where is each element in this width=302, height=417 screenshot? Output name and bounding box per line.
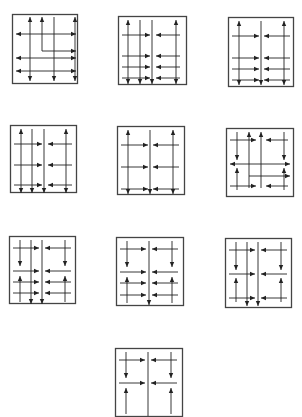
arrowhead-icon xyxy=(169,373,173,378)
arrowhead-icon xyxy=(141,247,146,251)
arrowhead-icon xyxy=(285,174,290,178)
arrowhead-icon xyxy=(259,80,263,85)
arrowhead-icon xyxy=(16,69,21,73)
arrowhead-icon xyxy=(63,261,67,266)
arrowhead-icon xyxy=(37,142,42,146)
arrowhead-icon xyxy=(143,165,148,169)
arrowhead-icon xyxy=(141,293,146,297)
arrowhead-icon xyxy=(52,76,56,81)
arrowhead-icon xyxy=(264,56,269,60)
arrowhead-icon xyxy=(152,293,157,297)
arrowhead-icon xyxy=(48,163,53,167)
arrowhead-icon xyxy=(152,270,157,274)
arrowhead-icon xyxy=(48,142,53,146)
arrowhead-icon xyxy=(235,168,239,173)
panel-frame xyxy=(11,126,77,193)
arrowhead-icon xyxy=(45,269,50,273)
panel-3 xyxy=(228,17,294,87)
arrowhead-icon xyxy=(18,261,22,266)
arrowhead-icon xyxy=(261,272,266,276)
arrowhead-icon xyxy=(282,80,286,85)
arrowhead-icon xyxy=(282,21,286,26)
arrowhead-icon xyxy=(250,296,255,300)
arrowhead-icon xyxy=(254,34,259,38)
arrowhead-icon xyxy=(34,246,39,250)
arrowhead-icon xyxy=(145,54,150,58)
arrowhead-icon xyxy=(254,67,259,71)
arrowhead-icon xyxy=(19,129,23,134)
arrowhead-icon xyxy=(147,300,151,305)
arrowhead-icon xyxy=(254,56,259,60)
arrowhead-icon xyxy=(18,276,22,281)
arrowhead-icon xyxy=(34,269,39,273)
arrowhead-icon xyxy=(34,291,39,295)
arrowhead-icon xyxy=(143,187,148,191)
arrowhead-icon xyxy=(234,278,238,283)
arrowhead-icon xyxy=(153,143,158,147)
arrowhead-icon xyxy=(34,280,39,284)
panel-9 xyxy=(225,238,292,308)
arrowhead-icon xyxy=(125,262,129,267)
arrowhead-icon xyxy=(170,262,174,267)
arrowhead-icon xyxy=(48,183,53,187)
arrowhead-icon xyxy=(174,79,178,84)
arrowhead-icon xyxy=(148,189,152,194)
arrowhead-icon xyxy=(124,373,128,378)
arrowhead-icon xyxy=(261,248,266,252)
arrowhead-icon xyxy=(63,276,67,281)
arrowhead-icon xyxy=(37,163,42,167)
arrowhead-icon xyxy=(174,20,178,25)
arrowhead-icon xyxy=(126,79,130,84)
arrowhead-icon xyxy=(171,130,175,135)
arrowhead-icon xyxy=(247,132,251,137)
arrowhead-icon xyxy=(16,32,21,36)
arrowhead-icon xyxy=(16,56,21,60)
arrowhead-icon xyxy=(170,277,174,282)
arrowhead-icon xyxy=(156,76,161,80)
arrowhead-icon xyxy=(266,138,271,142)
arrowhead-icon xyxy=(153,187,158,191)
arrowhead-icon xyxy=(37,183,42,187)
arrowhead-icon xyxy=(261,296,266,300)
arrowhead-icon xyxy=(45,280,50,284)
panel-8 xyxy=(116,237,184,306)
arrowhead-icon xyxy=(264,78,269,82)
arrowhead-icon xyxy=(152,281,157,285)
arrowhead-icon xyxy=(40,17,44,22)
arrowhead-icon xyxy=(64,129,68,134)
panel-10 xyxy=(115,348,183,417)
arrowhead-icon xyxy=(237,21,241,26)
arrowhead-icon xyxy=(264,67,269,71)
arrowhead-icon xyxy=(45,291,50,295)
arrowhead-icon xyxy=(73,76,77,81)
arrowhead-icon xyxy=(141,270,146,274)
arrowhead-icon xyxy=(150,79,154,84)
arrowhead-icon xyxy=(235,155,239,160)
arrowhead-icon xyxy=(169,388,173,393)
arrowhead-icon xyxy=(140,381,145,385)
arrowhead-icon xyxy=(126,189,130,194)
arrowhead-icon xyxy=(138,79,142,84)
arrowhead-icon xyxy=(145,65,150,69)
panel-frame xyxy=(10,237,76,304)
panel-6 xyxy=(226,128,294,197)
arrowhead-icon xyxy=(279,278,283,283)
arrowhead-icon xyxy=(156,33,161,37)
arrowhead-icon xyxy=(145,33,150,37)
arrowhead-icon xyxy=(151,381,156,385)
arrowhead-icon xyxy=(28,76,32,81)
arrowhead-icon xyxy=(251,184,256,188)
arrowhead-icon xyxy=(251,138,256,142)
arrowhead-icon xyxy=(279,265,283,270)
arrowhead-icon xyxy=(230,162,235,166)
panel-5 xyxy=(117,126,185,195)
arrowhead-icon xyxy=(124,388,128,393)
arrowhead-icon xyxy=(254,78,259,82)
arrowhead-icon xyxy=(125,277,129,282)
arrowhead-icon xyxy=(153,165,158,169)
arrowhead-icon xyxy=(28,17,32,22)
arrowhead-icon xyxy=(152,247,157,251)
panel-2 xyxy=(118,16,187,85)
arrowhead-icon xyxy=(256,301,260,306)
arrowhead-icon xyxy=(151,358,156,362)
